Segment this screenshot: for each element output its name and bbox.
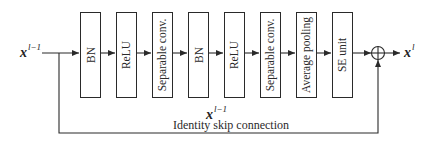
output-label-base: x (404, 45, 411, 60)
block-relu-1: ReLU (116, 12, 137, 98)
block-se-unit: SE unit (332, 12, 353, 98)
skip-input-label-sup: l−1 (214, 104, 227, 114)
output-label: xl (404, 42, 415, 61)
input-label: xl−1 (20, 42, 41, 61)
block-label: Separable conv. (157, 19, 169, 92)
block-bn-2: BN (188, 12, 209, 98)
block-label: Average pooling (301, 17, 313, 93)
block-separable-conv-1: Separable conv. (152, 12, 173, 98)
block-relu-2: ReLU (224, 12, 245, 98)
block-label: BN (192, 47, 204, 63)
block-bn-1: BN (80, 12, 101, 98)
block-label: ReLU (121, 41, 133, 69)
block-label: SE unit (337, 38, 349, 72)
skip-connection-caption: Identity skip connection (173, 118, 289, 133)
input-label-base: x (20, 45, 27, 60)
block-label: BN (84, 47, 96, 63)
block-average-pooling: Average pooling (296, 12, 317, 98)
block-separable-conv-2: Separable conv. (260, 12, 281, 98)
output-label-sup: l (412, 42, 415, 52)
block-label: ReLU (229, 41, 241, 69)
input-label-sup: l−1 (28, 42, 41, 52)
block-label: Separable conv. (265, 19, 277, 92)
